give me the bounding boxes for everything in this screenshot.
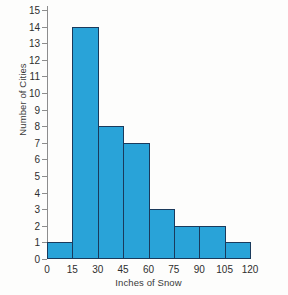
y-tick-label: 15: [29, 5, 40, 16]
y-tick-mark: [42, 259, 47, 260]
x-tick-label: 75: [168, 264, 179, 275]
y-tick-label: 0: [34, 254, 40, 265]
y-tick-label: 8: [34, 121, 40, 132]
y-tick-label: 5: [34, 171, 40, 182]
y-axis-label: Number of Cities: [17, 30, 28, 170]
histogram-bar: [98, 126, 125, 259]
x-tick-label: 120: [242, 264, 259, 275]
y-tick-label: 11: [30, 71, 40, 82]
y-tick-label: 7: [34, 137, 40, 148]
histogram-bar: [123, 143, 150, 259]
x-tick-label: 90: [194, 264, 205, 275]
y-tick-label: 1: [34, 237, 40, 248]
x-tick-label: 105: [216, 264, 233, 275]
y-tick-label: 2: [34, 220, 40, 231]
histogram-bar: [72, 27, 99, 259]
bar-series: [47, 10, 250, 259]
x-axis-label: Inches of Snow: [47, 277, 250, 288]
x-tick-label: 30: [92, 264, 103, 275]
y-tick-label: 10: [29, 88, 40, 99]
x-tick-label: 0: [44, 264, 50, 275]
y-tick-label: 12: [29, 54, 40, 65]
histogram-bar: [174, 226, 201, 259]
y-tick-label: 3: [34, 204, 40, 215]
y-tick-label: 13: [29, 38, 40, 49]
x-tick-label: 60: [143, 264, 154, 275]
histogram-chart: Number of Cities 0123456789101112131415 …: [0, 0, 288, 295]
y-tick-label: 9: [34, 104, 40, 115]
histogram-bar: [47, 242, 74, 259]
x-tick-label: 45: [118, 264, 129, 275]
histogram-bar: [225, 242, 252, 259]
histogram-bar: [199, 226, 226, 259]
x-tick-label: 15: [67, 264, 78, 275]
y-tick-label: 6: [34, 154, 40, 165]
y-tick-label: 4: [34, 187, 40, 198]
y-tick-label: 14: [29, 21, 40, 32]
plot-area: 0123456789101112131415 01530456075901051…: [47, 10, 250, 259]
histogram-bar: [149, 209, 176, 259]
